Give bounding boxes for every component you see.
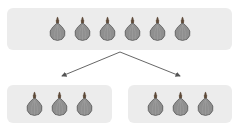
group-box-right: [128, 85, 232, 123]
onion-icon: [146, 91, 165, 117]
onion-icon: [148, 16, 167, 42]
group-box-whole: [7, 8, 232, 50]
onion-icon: [25, 91, 44, 117]
onion-icon: [50, 91, 69, 117]
onion-icon: [73, 16, 92, 42]
onion-icon: [196, 91, 215, 117]
group-box-left: [7, 85, 112, 123]
arrow-left-icon: [62, 52, 120, 76]
onion-icon: [48, 16, 67, 42]
onion-icon: [75, 91, 94, 117]
onion-icon: [123, 16, 142, 42]
onion-icon: [173, 16, 192, 42]
arrow-right-icon: [120, 52, 180, 76]
onion-icon: [98, 16, 117, 42]
onion-icon: [171, 91, 190, 117]
